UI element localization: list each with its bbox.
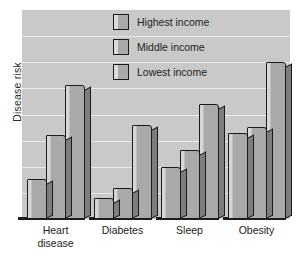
legend-item[interactable]: Middle income	[113, 36, 209, 58]
bar-side	[218, 106, 225, 219]
bar-side	[113, 200, 120, 219]
bar-side	[285, 64, 292, 219]
bar[interactable]	[161, 167, 187, 219]
x-axis-labels: HeartdiseaseDiabetesSleepObesity	[22, 224, 290, 258]
bar[interactable]	[94, 198, 120, 219]
bar-side	[266, 129, 273, 219]
legend-swatch-lowest-icon	[113, 64, 129, 80]
legend-swatch-middle-icon	[113, 39, 129, 55]
legend-item[interactable]: Lowest income	[113, 61, 209, 83]
bar-side	[132, 189, 139, 219]
legend-label: Middle income	[137, 41, 205, 53]
legend-swatch-highest-icon	[113, 14, 129, 30]
bar-side	[84, 87, 91, 219]
x-axis-label: Sleep	[156, 224, 223, 237]
bar-chart: Disease risk Highest income Middle incom…	[0, 0, 297, 258]
bar-face	[94, 198, 114, 219]
bar-face	[27, 179, 47, 219]
bar-side	[180, 168, 187, 219]
x-axis-label: Diabetes	[89, 224, 156, 237]
bar-side	[247, 135, 254, 219]
bar-side	[199, 152, 206, 219]
axis-segment	[18, 217, 24, 220]
x-axis-label: Obesity	[223, 224, 290, 237]
bar-face	[228, 133, 248, 219]
legend: Highest income Middle income Lowest inco…	[113, 11, 209, 86]
bar-side	[151, 127, 158, 219]
legend-label: Lowest income	[137, 66, 207, 78]
legend-label: Highest income	[137, 16, 209, 28]
bar-side	[65, 137, 72, 219]
bar-group	[223, 10, 290, 219]
bar[interactable]	[228, 133, 254, 219]
bar-face	[161, 167, 181, 219]
legend-item[interactable]: Highest income	[113, 11, 209, 33]
bar[interactable]	[27, 179, 53, 219]
bar-side	[46, 181, 53, 219]
bar-group	[22, 10, 89, 219]
x-axis-label: Heartdisease	[22, 224, 89, 249]
